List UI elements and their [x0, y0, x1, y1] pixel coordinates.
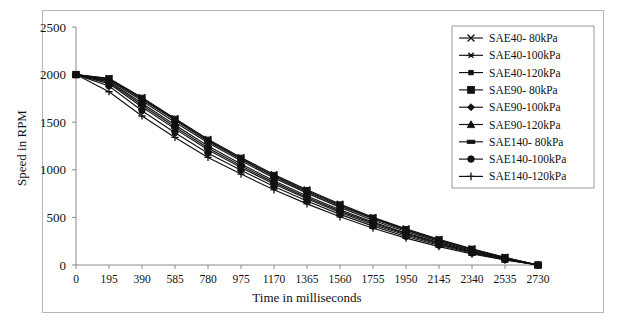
data-point-marker [469, 70, 473, 74]
legend-label: SAE140-100kPa [489, 153, 566, 165]
x-tick-label: 2730 [527, 273, 550, 285]
x-axis-tick-labels: 0195390585780975117013651560175519502145… [73, 273, 550, 285]
x-tick-label: 0 [73, 273, 79, 285]
x-tick-label: 1365 [296, 273, 319, 285]
chart-legend: SAE40- 80kPaSAE40-100kPaSAE40-120kPaSAE9… [452, 26, 594, 188]
legend-label: SAE40- 80kPa [489, 32, 558, 44]
x-tick-label: 390 [133, 273, 151, 285]
data-point-marker [138, 104, 145, 107]
x-tick-label: 1170 [263, 273, 286, 285]
legend-label: SAE140- 80kPa [489, 136, 563, 148]
y-tick-label: 1000 [40, 162, 66, 177]
y-axis-tick-marks [72, 27, 76, 265]
x-tick-label: 975 [232, 273, 250, 285]
legend-label: SAE90-100kPa [489, 101, 561, 113]
y-axis-title: Speed in RPM [14, 110, 29, 186]
data-point-marker [468, 156, 475, 163]
x-tick-label: 2145 [428, 273, 451, 285]
data-point-marker [204, 146, 211, 149]
figure-container: 05001000150020002500 0195390585780975117… [0, 0, 617, 331]
x-tick-label: 195 [100, 273, 118, 285]
x-tick-label: 780 [199, 273, 217, 285]
x-tick-label: 1560 [329, 273, 352, 285]
y-tick-label: 2000 [40, 67, 66, 82]
data-point-marker [171, 125, 178, 128]
y-tick-label: 500 [47, 210, 67, 225]
legend-label: SAE40-100kPa [489, 49, 561, 61]
data-point-marker [467, 140, 475, 143]
legend-label: SAE140-120kPa [489, 170, 566, 182]
x-axis-title: Time in milliseconds [252, 290, 361, 305]
x-tick-label: 2535 [494, 273, 517, 285]
y-axis-tick-labels: 05001000150020002500 [40, 20, 66, 273]
line-chart: 05001000150020002500 0195390585780975117… [0, 0, 617, 331]
y-tick-label: 1500 [40, 115, 66, 130]
x-tick-label: 1755 [362, 273, 385, 285]
x-tick-label: 1950 [395, 273, 418, 285]
legend-label: SAE90- 80kPa [489, 84, 558, 96]
x-tick-label: 585 [166, 273, 184, 285]
x-axis-tick-marks [76, 265, 538, 269]
legend-label: SAE40-120kPa [489, 67, 561, 79]
y-tick-label: 2500 [40, 20, 66, 35]
data-point-marker [468, 87, 475, 94]
y-tick-label: 0 [60, 258, 67, 273]
legend-label: SAE90-120kPa [489, 119, 561, 131]
x-tick-label: 2340 [461, 273, 484, 285]
